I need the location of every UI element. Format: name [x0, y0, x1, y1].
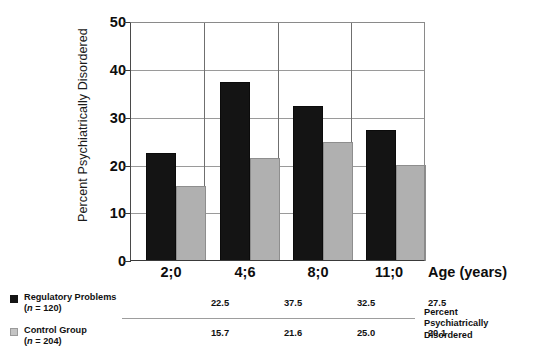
table-right-label: Percent Psychiatrically Disordered [424, 307, 544, 341]
table-cell-regulatory-2-0: 22.5 [185, 297, 255, 308]
legend-label-control: Control Group [24, 325, 87, 335]
legend-swatch-regulatory-icon [10, 295, 18, 303]
table-separator-rule [122, 318, 415, 319]
legend-swatch-control-icon [10, 328, 18, 336]
legend-n-control: (n = 204) [24, 336, 62, 346]
y-tick-label-40: 40 [92, 62, 126, 78]
y-tick-mark-0 [124, 261, 131, 262]
plot-frame [130, 22, 425, 261]
table-right-label-line2: Psychiatrically [424, 318, 488, 328]
legend-label-regulatory: Regulatory Problems [24, 292, 116, 302]
legend-item-control-group: Control Group (n = 204) [10, 325, 87, 347]
table-cell-control-8-0: 25.0 [331, 327, 401, 338]
x-tick-label-8-0: 8;0 [278, 264, 358, 280]
x-tick-label-11-0: 11;0 [349, 264, 429, 280]
legend-n-regulatory: (n = 120) [24, 303, 62, 313]
y-tick-label-30: 30 [92, 110, 126, 126]
legend-item-regulatory-problems: Regulatory Problems (n = 120) [10, 292, 116, 314]
table-right-label-line3: Disordered [424, 330, 473, 340]
table-right-label-line1: Percent [424, 307, 458, 317]
y-tick-label-20: 20 [92, 158, 126, 174]
table-cell-control-2-0: 15.7 [185, 327, 255, 338]
x-axis-title: Age (years) [428, 264, 507, 280]
y-tick-label-50: 50 [92, 14, 126, 30]
plot-area [130, 22, 425, 261]
y-tick-label-0: 0 [92, 253, 126, 269]
x-tick-label-2-0: 2;0 [131, 264, 211, 280]
table-cell-regulatory-8-0: 32.5 [331, 297, 401, 308]
figure: Percent Psychiatrically Disordered 50 40… [0, 0, 546, 361]
table-cell-control-4-6: 21.6 [258, 327, 328, 338]
y-axis-title: Percent Psychiatrically Disordered [76, 0, 90, 250]
table-cell-regulatory-4-6: 37.5 [258, 297, 328, 308]
y-tick-label-10: 10 [92, 205, 126, 221]
x-tick-label-4-6: 4;6 [205, 264, 285, 280]
